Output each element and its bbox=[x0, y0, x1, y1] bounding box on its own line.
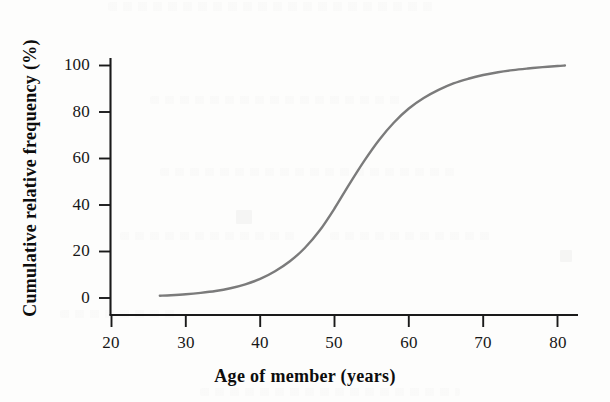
x-axis-ticks bbox=[112, 316, 558, 327]
y-tick-label-100: 100 bbox=[40, 55, 90, 75]
x-tick-label-80: 80 bbox=[549, 333, 566, 353]
y-tick-label-60: 60 bbox=[40, 148, 90, 168]
y-tick-label-80: 80 bbox=[40, 102, 90, 122]
y-tick-label-0: 0 bbox=[40, 288, 90, 308]
y-tick-label-20: 20 bbox=[40, 241, 90, 261]
x-tick-label-40: 40 bbox=[251, 333, 268, 353]
y-axis-ticks bbox=[99, 66, 110, 299]
x-tick-label-30: 30 bbox=[177, 333, 194, 353]
x-tick-label-70: 70 bbox=[474, 333, 491, 353]
y-axis-title: Cumulative relative frequency (%) bbox=[20, 39, 41, 317]
x-tick-label-50: 50 bbox=[325, 333, 342, 353]
x-tick-label-20: 20 bbox=[102, 333, 119, 353]
plot-area bbox=[0, 0, 610, 402]
x-tick-label-60: 60 bbox=[400, 333, 417, 353]
x-axis-title: Age of member (years) bbox=[214, 366, 395, 387]
y-tick-label-40: 40 bbox=[40, 195, 90, 215]
chart-page: 100 80 60 40 20 0 20 30 40 50 60 70 80 A… bbox=[0, 0, 610, 402]
cumulative-frequency-curve bbox=[160, 66, 565, 296]
